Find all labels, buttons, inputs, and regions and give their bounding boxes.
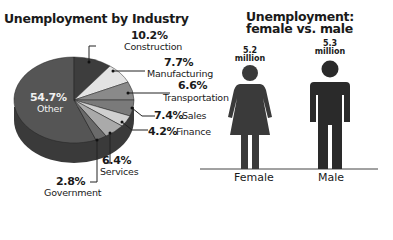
male-label: Male <box>318 172 344 183</box>
pie-label-finance-pct: 4.2% <box>148 126 177 137</box>
pie-label-government-pct: 2.8% <box>56 176 85 187</box>
male-icon <box>310 61 350 170</box>
pie-label-services-pct: 6.4% <box>102 155 131 166</box>
pie-label-other-pct: 54.7% <box>30 92 67 103</box>
female-label: Female <box>234 172 274 183</box>
male-unit: million <box>312 48 348 57</box>
pie-label-services: Services <box>100 167 138 177</box>
pie-label-construction-pct: 10.2% <box>131 30 168 41</box>
pie-label-construction: Construction <box>124 42 182 52</box>
gender-chart-title-line2: female vs. male <box>246 22 353 35</box>
pie-label-finance: Finance <box>176 127 211 137</box>
pie-label-manufacturing: Manufacturing <box>147 69 213 79</box>
pie-label-manufacturing-pct: 7.7% <box>164 57 193 68</box>
pie-label-transportation-pct: 6.6% <box>178 80 207 91</box>
pie-label-sales: Sales <box>182 111 206 121</box>
female-unit: million <box>232 55 268 64</box>
pie-label-government: Government <box>44 188 101 198</box>
pie-label-sales-pct: 7.4% <box>154 110 183 121</box>
pie-label-transportation: Transportation <box>163 93 229 103</box>
pie-label-other: Other <box>37 104 63 114</box>
female-icon <box>228 65 272 169</box>
